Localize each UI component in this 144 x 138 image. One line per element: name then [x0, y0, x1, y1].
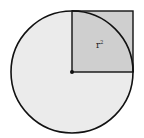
circle-square-diagram: r2: [0, 0, 144, 138]
center-point: [70, 70, 74, 74]
square-label-exponent: 2: [100, 39, 103, 45]
